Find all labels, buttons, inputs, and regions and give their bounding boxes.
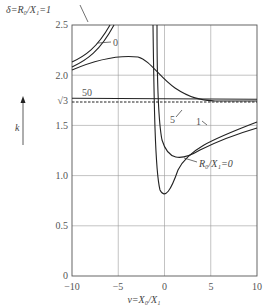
label-0: 0 [113,37,118,48]
annotations: 0 50 5 1 R₀/X₁=0 [80,5,233,169]
x-axis-label: v=X₀/X₁ [127,294,160,305]
svg-text:k: k [15,122,20,133]
chart: 0 0.5 1.0 1.5 2.0 2.5 √3 −10 −5 0 5 10 δ… [0,0,269,307]
svg-text:2.5: 2.5 [56,19,69,30]
svg-text:0.5: 0.5 [56,220,69,231]
svg-text:−10: −10 [64,281,80,292]
svg-text:0: 0 [63,270,68,281]
grid [72,25,257,276]
svg-text:0: 0 [162,281,167,292]
label-50: 50 [82,87,92,98]
curve-50 [72,98,257,99]
svg-text:5: 5 [209,281,214,292]
curve-0-inner [72,25,114,67]
label-5: 5 [170,114,175,125]
y-axis-ticks: 0 0.5 1.0 1.5 2.0 2.5 √3 [56,19,69,281]
label-r0: R₀/X₁=0 [198,158,233,169]
y-axis-label: k [15,96,26,145]
up-arrow-icon [21,96,26,103]
curve-5 [157,25,257,157]
chart-title: δ=R₀/X₁=1 [6,4,51,15]
svg-text:1.0: 1.0 [56,170,69,181]
svg-text:1.5: 1.5 [56,120,69,131]
svg-text:−5: −5 [113,281,124,292]
curve-0-outer [72,25,110,62]
svg-text:√3: √3 [58,95,69,106]
label-1: 1 [196,116,201,127]
svg-text:2.0: 2.0 [56,70,69,81]
svg-text:10: 10 [252,281,262,292]
x-axis-ticks: −10 −5 0 5 10 [64,281,262,292]
